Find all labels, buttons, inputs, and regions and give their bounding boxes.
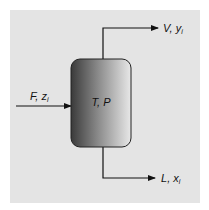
feed-stream-label: F, zi xyxy=(30,91,49,103)
liquid-subscript: i xyxy=(179,178,181,185)
vapor-stream-label: V, yi xyxy=(163,23,183,35)
feed-subscript: i xyxy=(47,96,49,103)
vapor-stream-arrow xyxy=(103,28,158,59)
vessel-conditions-label: T, P xyxy=(71,97,131,108)
liquid-stream-label: L, xi xyxy=(161,173,180,185)
vapor-subscript: i xyxy=(181,28,183,35)
liquid-stream-arrow xyxy=(103,147,155,178)
